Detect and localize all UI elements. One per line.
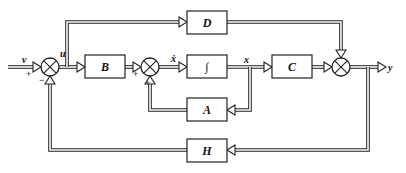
wire-x-to-A bbox=[235, 67, 250, 110]
arrow-into-int-icon bbox=[179, 62, 187, 72]
arrow-into-sum3-top-icon bbox=[336, 50, 346, 58]
arrow-into-C-icon bbox=[264, 62, 272, 72]
summing-junction-2 bbox=[141, 58, 159, 76]
wire-y-to-H bbox=[235, 67, 368, 150]
block-B: B bbox=[85, 55, 125, 78]
sum1-minus-sign: − bbox=[39, 75, 44, 85]
block-D: D bbox=[187, 11, 227, 34]
xdot-signal-label: ẋ bbox=[170, 53, 176, 64]
block-D-label: D bbox=[202, 16, 212, 30]
wire-D-to-sum3 bbox=[227, 22, 341, 50]
u-signal-label: u bbox=[60, 48, 66, 59]
block-A-label: A bbox=[202, 103, 211, 117]
arrow-into-H-icon bbox=[227, 145, 235, 155]
wire-H-to-sum1 bbox=[50, 84, 187, 150]
signal-wires bbox=[8, 22, 378, 150]
arrow-into-sum3-left-icon bbox=[324, 62, 332, 72]
sum2-plus-sign-bottom: + bbox=[145, 78, 150, 88]
arrow-into-sum1-bot-icon bbox=[45, 76, 55, 84]
sum1-plus-sign: + bbox=[26, 69, 31, 79]
block-H-label: H bbox=[201, 144, 212, 158]
input-signal-label: v bbox=[22, 54, 27, 65]
arrow-into-D-icon bbox=[179, 17, 187, 27]
output-signal-label: y bbox=[387, 62, 393, 73]
block-A: A bbox=[187, 98, 227, 121]
sum2-plus-sign-left: + bbox=[133, 69, 138, 79]
x-signal-label: x bbox=[243, 54, 249, 65]
wire-A-to-sum2 bbox=[150, 84, 187, 110]
arrow-into-A-icon bbox=[227, 105, 235, 115]
block-B-label: B bbox=[100, 60, 109, 74]
summing-junction-1 bbox=[41, 58, 59, 76]
block-integrator: ∫ bbox=[187, 55, 227, 78]
arrow-into-sum1-left-icon bbox=[33, 62, 41, 72]
block-H: H bbox=[187, 139, 227, 162]
block-diagram: B ∫ C D A H v u ẋ x y + − + + bbox=[0, 0, 406, 173]
block-C-label: C bbox=[288, 60, 297, 74]
arrow-output-y-icon bbox=[378, 62, 386, 72]
integrator-label: ∫ bbox=[204, 60, 209, 74]
signal-arrows bbox=[33, 17, 386, 155]
block-C: C bbox=[272, 55, 312, 78]
arrow-into-B-icon bbox=[77, 62, 85, 72]
summing-junction-3 bbox=[332, 58, 350, 76]
